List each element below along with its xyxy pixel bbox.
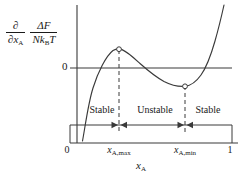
region-label-stable-left: Stable xyxy=(78,104,126,115)
x-tick-zero-text: 0 xyxy=(65,144,70,155)
x-axis-tick-x-a-max: xA,max xyxy=(93,144,145,155)
local-minimum-marker xyxy=(183,84,188,89)
x-axis-title-subscript: A xyxy=(141,165,146,173)
x-axis-tick-x-a-min: xA,min xyxy=(159,144,211,155)
arrowhead-left-of-x-a-max xyxy=(112,122,119,128)
x-a-min-subscript: A,min xyxy=(178,149,196,157)
region-label-stable-right: Stable xyxy=(184,104,232,115)
arrowhead-right-of-x-a-min xyxy=(187,122,194,128)
x-a-max-subscript: A,max xyxy=(112,149,131,157)
derivative-curve xyxy=(83,5,225,141)
arrowhead-left-of-x-a-min xyxy=(178,122,185,128)
x-tick-one-text: 1 xyxy=(228,144,233,155)
arrowhead-right-of-x-a-max xyxy=(121,122,128,128)
x-axis-tick-zero: 0 xyxy=(58,144,76,155)
region-label-unstable: Unstable xyxy=(126,104,184,115)
x-axis-title: xA xyxy=(121,159,161,171)
local-maximum-marker xyxy=(117,47,122,52)
figure-canvas: ∂ ∂xA ΔF NkBT 0 xyxy=(0,0,240,179)
x-axis-tick-one: 1 xyxy=(222,144,238,155)
